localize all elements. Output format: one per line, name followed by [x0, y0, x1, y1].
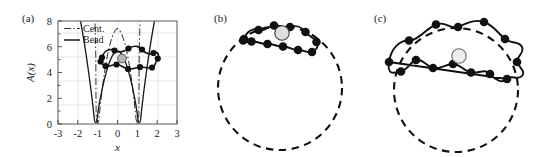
panel-c: (c) [364, 0, 540, 157]
grid-lines [58, 21, 177, 124]
x-axis-ticks [58, 120, 177, 124]
x-tick-label-0: 0 [115, 128, 120, 139]
x-tick-label-neg3: -3 [54, 128, 63, 139]
ring-polymer-centroid-a [118, 54, 127, 63]
dashed-circle-c [394, 28, 518, 152]
y-tick-label-2: 2 [47, 93, 52, 104]
x-tick-label-neg2: -2 [73, 128, 82, 139]
panel-b: (b) [196, 0, 364, 157]
x-tick-label-3: 3 [174, 128, 179, 139]
chart-legend: Cent. Bead [64, 23, 104, 46]
panel-a: (a) [0, 0, 196, 157]
y-tick-label-8: 8 [47, 16, 52, 27]
panel-b-diagram [196, 0, 364, 157]
y-tick-label-0: 0 [47, 119, 52, 130]
y-tick-label-6: 6 [47, 42, 52, 53]
plot-frame [58, 21, 177, 124]
legend-label-bead: Bead [83, 34, 104, 45]
x-tick-label-1: 1 [135, 128, 140, 139]
ring-polymer-centroid-b [275, 26, 289, 40]
ring-polymer-centroid-c [452, 49, 466, 63]
x-axis-title: x [114, 141, 120, 153]
x-tick-label-2: 2 [155, 128, 160, 139]
y-tick-label-4: 4 [47, 67, 53, 78]
y-axis-title: A(x) [24, 63, 37, 83]
y-axis-ticks [58, 21, 62, 124]
panel-c-diagram [364, 0, 540, 157]
panel-a-plot: 8 6 4 2 0 -3 -2 -1 0 1 2 3 x A(x) [0, 0, 196, 157]
figure-root: (a) [0, 0, 540, 157]
x-tick-label-neg1: -1 [93, 128, 102, 139]
legend-label-cent: Cent. [83, 23, 104, 34]
